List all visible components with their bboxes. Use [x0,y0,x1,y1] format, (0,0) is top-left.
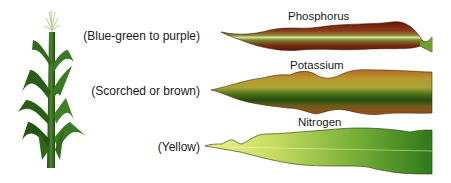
potassium-leaf [211,70,432,115]
symptom-phosphorus: (Blue-green to purple) [83,30,200,42]
diagram-canvas [0,0,451,183]
symptom-nitrogen: (Yellow) [158,141,200,153]
symptom-potassium: (Scorched or brown) [91,85,200,97]
tassel [44,10,60,32]
phosphorus-leaf [221,22,432,52]
label-nitrogen: Nitrogen [298,117,341,129]
label-potassium: Potassium [290,60,344,72]
nitrogen-leaf [205,128,432,174]
stalk [47,32,55,168]
corn-plant-illustration [18,10,86,168]
label-phosphorus: Phosphorus [288,11,349,23]
